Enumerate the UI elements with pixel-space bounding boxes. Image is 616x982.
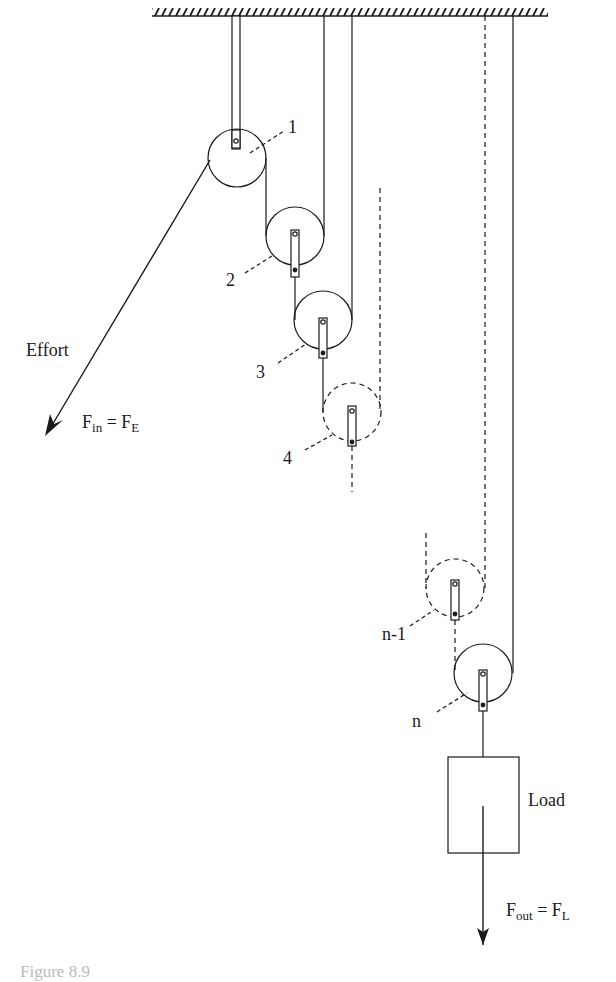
pulley-4 xyxy=(323,383,381,446)
load-force-label: Fout = FL xyxy=(506,900,570,923)
pulley-label-2: 2 xyxy=(226,270,235,290)
pulley-n-minus-1 xyxy=(426,533,484,620)
load-label: Load xyxy=(528,790,565,810)
pulley-3 xyxy=(294,291,352,358)
pulley-label-4: 4 xyxy=(283,448,292,468)
pulley-2 xyxy=(266,207,324,277)
ceiling-support xyxy=(152,8,548,16)
pulley-label-1: 1 xyxy=(288,117,297,137)
pulley-label-n-minus-1: n-1 xyxy=(382,624,406,644)
pulley-1 xyxy=(208,16,266,187)
effort-rope xyxy=(48,160,210,432)
pulley-label-3: 3 xyxy=(256,362,265,382)
effort-force-label: Fin = FE xyxy=(82,412,139,435)
effort-label: Effort xyxy=(26,340,69,360)
pulley-label-n: n xyxy=(412,711,421,731)
figure-caption: Figure 8.9 xyxy=(20,962,90,982)
pulley-n xyxy=(454,644,512,711)
effort-arrowhead-icon xyxy=(45,414,63,436)
